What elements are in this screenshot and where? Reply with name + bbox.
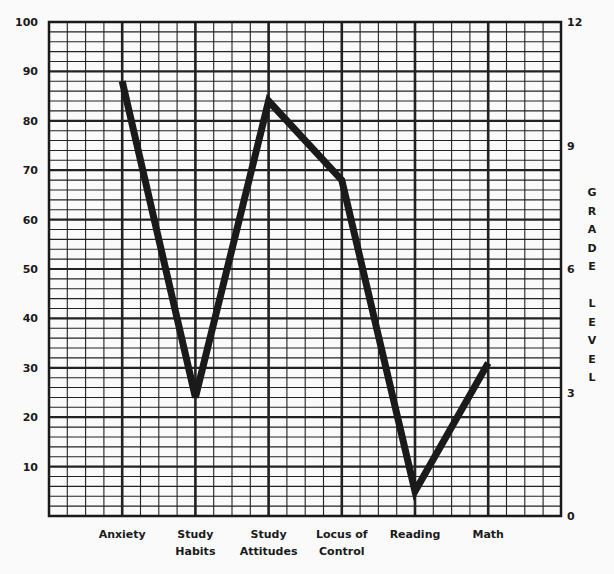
y-tick-label: 20	[23, 411, 39, 424]
y2-title-letter: G	[587, 186, 596, 199]
x-axis-category-labels: AnxietyStudyHabitsStudyAttitudesLocus of…	[99, 528, 504, 558]
y2-title-letter: E	[588, 260, 596, 273]
y-tick-label: 60	[23, 214, 39, 227]
y-axis-left-ticks: 102030405060708090100	[15, 16, 38, 474]
y2-tick-label: 6	[567, 263, 575, 276]
y-tick-label: 100	[15, 16, 38, 29]
y-axis-right-ticks: 036912	[567, 16, 582, 523]
y-tick-label: 30	[23, 362, 39, 375]
y-tick-label: 10	[23, 461, 39, 474]
x-category-label: Study	[251, 528, 287, 541]
x-category-label: Attitudes	[240, 545, 298, 558]
y2-title-letter: E	[588, 316, 596, 329]
y-tick-label: 70	[23, 164, 39, 177]
y2-tick-label: 12	[567, 16, 582, 29]
y2-title-letter: A	[588, 223, 597, 236]
x-category-label: Anxiety	[99, 528, 146, 541]
y-tick-label: 90	[23, 65, 39, 78]
y-tick-label: 80	[23, 115, 39, 128]
x-category-label: Locus of	[316, 528, 368, 541]
y2-title-letter: D	[587, 242, 596, 255]
x-category-label: Math	[472, 528, 503, 541]
y2-tick-label: 9	[567, 140, 575, 153]
y2-title-letter: V	[588, 334, 597, 347]
x-category-label: Study	[177, 528, 213, 541]
y2-title-letter: R	[588, 205, 597, 218]
x-category-label: Reading	[390, 528, 441, 541]
y-tick-label: 40	[23, 312, 39, 325]
y2-title-letter: E	[588, 353, 596, 366]
y2-title-letter: L	[588, 297, 595, 310]
x-category-label: Habits	[175, 545, 216, 558]
y-tick-label: 50	[23, 263, 39, 276]
y-axis-right-title: GRADELEVEL	[587, 186, 596, 384]
y2-title-letter: L	[588, 371, 595, 384]
y2-tick-label: 3	[567, 387, 575, 400]
y2-tick-label: 0	[567, 510, 575, 523]
line-chart: 102030405060708090100 036912 GRADELEVEL …	[0, 0, 614, 574]
x-category-label: Control	[319, 545, 364, 558]
